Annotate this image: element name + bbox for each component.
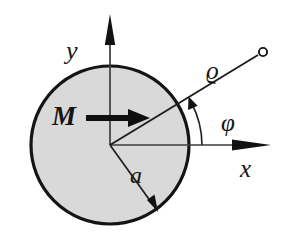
y-axis-label: y [66, 38, 78, 64]
phi-arc-arrowhead [188, 97, 198, 111]
field-point-marker [259, 48, 267, 56]
y-axis-arrowhead [105, 14, 115, 45]
figure-canvas: y x M a ϱ φ [0, 0, 290, 245]
rho-label: ϱ [206, 58, 219, 83]
diagram-svg [0, 0, 290, 245]
x-axis-label: x [240, 156, 251, 181]
magnetization-label: M [52, 103, 76, 130]
x-axis-arrowhead [232, 139, 271, 150]
phi-angle-arc [192, 103, 203, 145]
radius-label: a [130, 163, 142, 187]
phi-label: φ [221, 110, 235, 135]
